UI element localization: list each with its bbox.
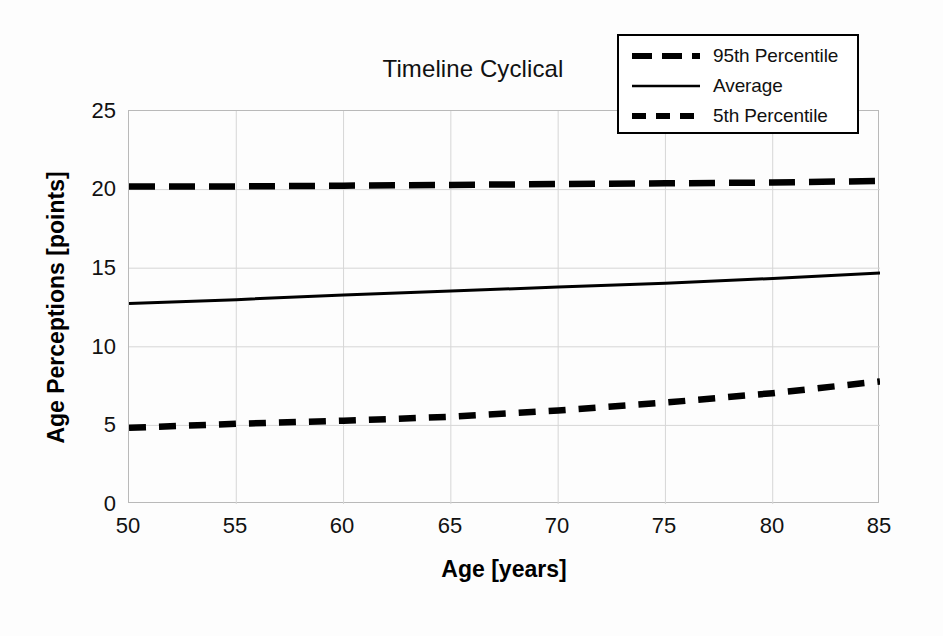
series-line-5th-percentile — [129, 381, 880, 427]
y-tick-label: 20 — [56, 178, 116, 200]
short-dash-key-icon — [631, 109, 701, 123]
chart-title: Timeline Cyclical — [338, 55, 608, 83]
x-tick-label: 50 — [93, 515, 163, 537]
plot-canvas — [129, 111, 880, 504]
y-axis-tick-labels: 25 20 15 10 5 0 — [48, 0, 116, 636]
long-dash-key-icon — [631, 49, 701, 63]
x-axis-tick-labels: 50 55 60 65 70 75 80 85 — [128, 515, 879, 549]
gridlines — [129, 111, 880, 504]
x-tick-label: 60 — [307, 515, 377, 537]
series-line-95th-percentile — [129, 181, 880, 187]
legend-label: 95th Percentile — [713, 45, 838, 67]
x-tick-label: 85 — [844, 515, 914, 537]
solid-line-key-icon — [631, 79, 701, 93]
x-tick-label: 55 — [200, 515, 270, 537]
legend-label: 5th Percentile — [713, 105, 828, 127]
x-tick-label: 70 — [522, 515, 592, 537]
legend-entry-95th-percentile: 95th Percentile — [619, 41, 857, 71]
y-tick-label: 5 — [56, 414, 116, 436]
x-tick-label: 80 — [737, 515, 807, 537]
plot-area — [128, 110, 879, 503]
x-tick-label: 75 — [629, 515, 699, 537]
legend: 95th Percentile Average 5th Percentile — [617, 34, 859, 134]
y-tick-label: 25 — [56, 100, 116, 122]
series-line-average — [129, 273, 880, 304]
chart-figure: Timeline Cyclical Age Perceptions [point… — [0, 0, 943, 636]
y-tick-label: 10 — [56, 336, 116, 358]
x-axis-title: Age [years] — [128, 556, 880, 583]
y-tick-label: 0 — [56, 493, 116, 515]
y-tick-label: 15 — [56, 257, 116, 279]
x-tick-label: 65 — [415, 515, 485, 537]
legend-entry-average: Average — [619, 71, 857, 101]
legend-entry-5th-percentile: 5th Percentile — [619, 101, 857, 131]
legend-label: Average — [713, 75, 783, 97]
data-series-layer — [129, 181, 880, 428]
